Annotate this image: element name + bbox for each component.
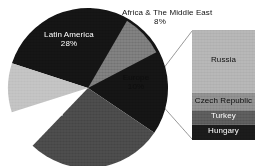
pie-label-latin-america-value: 28%: [26, 40, 112, 49]
pie-label-europe-text: Europe: [123, 73, 149, 82]
pie-label-latin-america-text: Latin America: [44, 30, 94, 39]
pie-label-asia-value: 55%: [22, 110, 88, 119]
bar-label-hungary: Hungary: [192, 127, 255, 136]
pie-label-africa-middle-east-text: Africa & The Middle East: [122, 8, 212, 17]
pie-label-africa-middle-east-value: 8%: [122, 18, 198, 27]
pie-label-latin-america: Latin America 28%: [26, 31, 112, 49]
bar-label-turkey: Turkey: [192, 112, 255, 121]
pie-label-europe-value: 10%: [112, 83, 160, 92]
pie-label-asia: Asia 55%: [22, 101, 88, 119]
pie-label-europe: Europe 10%: [112, 74, 160, 92]
pie-label-asia-text: Asia: [47, 100, 63, 109]
bar-label-czech-republic: Czech Republic: [189, 97, 258, 106]
pie-of-bar-chart: Latin America 28% Asia 55% Europe 10% Af…: [0, 0, 261, 166]
pie-label-africa-middle-east: Africa & The Middle East 8%: [122, 9, 198, 27]
bar-label-russia: Russia: [192, 56, 255, 65]
